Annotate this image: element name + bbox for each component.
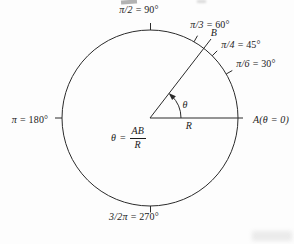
angle-label-30deg: π/6= 30° — [236, 59, 276, 69]
angle-label-60deg-symbol: π/3 — [190, 19, 203, 30]
angle-label-180deg-symbol: π — [12, 114, 17, 125]
theta-formula: θ = AB R — [111, 126, 146, 150]
angle-label-30deg-value: = 30° — [253, 58, 276, 69]
angle-label-45deg-value: = 45° — [238, 39, 261, 50]
tick-30deg — [226, 71, 232, 75]
angle-label-45deg: π/4= 45° — [221, 40, 261, 50]
theta-label: θ — [182, 100, 187, 110]
formula-lhs: θ — [111, 133, 116, 143]
angle-label-270deg-symbol: 3/2π — [109, 211, 128, 222]
point-label-b: B — [211, 28, 217, 38]
angle-label-90deg-symbol: π/2 — [119, 4, 132, 15]
angle-label-270deg: 3/2π= 270° — [109, 212, 159, 222]
tick-45deg — [212, 51, 217, 56]
angle-label-90deg: π/2= 90° — [119, 5, 159, 15]
radius-label: R — [186, 121, 192, 131]
formula-denominator: R — [135, 139, 141, 151]
formula-fraction: AB R — [130, 126, 146, 150]
angle-label-45deg-symbol: π/4 — [221, 39, 234, 50]
tick-60deg — [194, 36, 198, 42]
angle-label-180deg: π= 180° — [12, 115, 49, 125]
angle-label-30deg-symbol: π/6 — [236, 58, 249, 69]
angle-label-270deg-value: = 270° — [131, 211, 159, 222]
radius-ob-line — [150, 39, 211, 118]
angle-label-180deg-value: = 180° — [20, 114, 48, 125]
formula-numerator: AB — [130, 126, 146, 139]
point-label-a: A(θ = 0) — [253, 115, 289, 125]
formula-equals: = — [120, 133, 126, 143]
angle-label-90deg-value: = 90° — [136, 4, 159, 15]
figure-canvas: π/2= 90° π/3= 60° π/4= 45° π/6= 30° π= 1… — [0, 0, 294, 244]
